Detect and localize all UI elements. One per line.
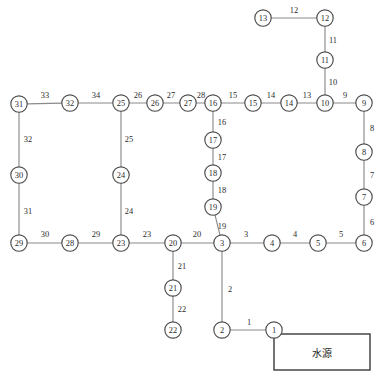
network-node: 6 (356, 235, 372, 251)
node-label: 12 (321, 14, 329, 23)
node-label: 14 (285, 99, 294, 108)
network-node: 27 (180, 95, 196, 111)
pipe-edge-label: 3 (244, 230, 248, 239)
pipe-edge-label: 23 (143, 230, 151, 239)
pipe-edge-label: 21 (178, 262, 186, 271)
network-node: 4 (264, 235, 280, 251)
network-node: 32 (62, 95, 78, 111)
pipe-edge-label: 18 (218, 186, 226, 195)
network-node: 18 (205, 165, 221, 181)
node-label: 28 (66, 239, 74, 248)
water-source-layer: 水源 (274, 334, 370, 370)
node-label: 30 (15, 171, 23, 180)
node-label: 31 (15, 100, 23, 109)
network-node: 23 (113, 235, 129, 251)
network-node: 29 (11, 235, 27, 251)
network-node: 17 (205, 132, 221, 148)
pipe-edge-label: 17 (218, 153, 226, 162)
node-label: 24 (117, 171, 126, 180)
node-label: 5 (316, 239, 320, 248)
edges-layer (19, 18, 364, 330)
pipe-edge-label: 1 (247, 318, 251, 327)
pipe-edge-label: 27 (167, 91, 175, 100)
node-label: 11 (321, 56, 329, 65)
pipe-edge-label: 2 (228, 285, 232, 294)
network-node: 16 (205, 95, 221, 111)
node-label: 20 (169, 239, 177, 248)
network-node: 21 (165, 280, 181, 296)
pipe-edge-label: 28 (197, 91, 205, 100)
network-node: 25 (113, 95, 129, 111)
pipe-edge-label: 13 (303, 91, 311, 100)
network-node: 15 (245, 95, 261, 111)
pipe-edge-label: 25 (125, 135, 133, 144)
node-label: 26 (151, 99, 159, 108)
node-label: 29 (15, 239, 23, 248)
network-node: 7 (356, 189, 372, 205)
water-source-label: 水源 (312, 347, 332, 359)
network-node: 1 (266, 322, 282, 338)
node-label: 9 (362, 99, 366, 108)
pipe-edge-label: 20 (193, 230, 201, 239)
network-node: 13 (255, 10, 271, 26)
network-node: 26 (147, 95, 163, 111)
pipe-network-diagram: 水源 1234567891011121314151617181920212223… (0, 0, 380, 377)
pipe-edge-label: 4 (293, 230, 298, 239)
network-node: 12 (317, 10, 333, 26)
network-node: 8 (356, 144, 372, 160)
node-label: 10 (321, 99, 329, 108)
pipe-edge-label: 14 (267, 91, 276, 100)
network-node: 3 (214, 235, 230, 251)
node-label: 6 (362, 239, 366, 248)
network-node: 22 (165, 322, 181, 338)
node-label: 13 (259, 14, 267, 23)
network-node: 10 (317, 95, 333, 111)
pipe-edge-label: 31 (24, 207, 32, 216)
pipe-edge-label: 34 (92, 91, 101, 100)
pipe-edge-label: 6 (370, 218, 374, 227)
node-label: 18 (209, 169, 217, 178)
pipe-edge-label: 12 (290, 6, 298, 15)
pipe-edge-label: 22 (178, 305, 186, 314)
network-node: 20 (165, 235, 181, 251)
network-node: 28 (62, 235, 78, 251)
network-node: 14 (281, 95, 297, 111)
node-label: 7 (362, 193, 366, 202)
node-label: 8 (362, 148, 366, 157)
network-node: 31 (11, 96, 27, 112)
node-label: 22 (169, 326, 177, 335)
pipe-edge-label: 11 (329, 36, 337, 45)
node-label: 21 (169, 284, 177, 293)
network-node: 9 (356, 95, 372, 111)
pipe-edge-label: 26 (134, 91, 142, 100)
node-label: 19 (209, 203, 217, 212)
node-label: 16 (209, 99, 217, 108)
network-node: 5 (310, 235, 326, 251)
pipe-edge-label: 29 (92, 230, 100, 239)
pipe-edge-label: 10 (329, 78, 337, 87)
node-label: 15 (249, 99, 257, 108)
network-node: 19 (205, 199, 221, 215)
node-label: 3 (220, 239, 224, 248)
node-label: 17 (209, 136, 217, 145)
network-svg: 水源 1234567891011121314151617181920212223… (0, 0, 380, 377)
network-node: 24 (113, 167, 129, 183)
pipe-edge-label: 33 (41, 91, 49, 100)
pipe-edge-label: 5 (339, 230, 343, 239)
pipe-edge-label: 32 (24, 135, 32, 144)
pipe-edge (27, 103, 62, 104)
pipe-edge-label: 30 (41, 230, 49, 239)
nodes-layer: 1234567891011121314151617181920212223242… (11, 10, 372, 338)
pipe-edge-label: 24 (125, 207, 134, 216)
network-node: 30 (11, 167, 27, 183)
pipe-edge-label: 15 (229, 91, 237, 100)
network-node: 2 (214, 322, 230, 338)
node-label: 32 (66, 99, 74, 108)
pipe-edge-label: 9 (343, 91, 347, 100)
node-label: 23 (117, 239, 125, 248)
node-label: 25 (117, 99, 125, 108)
node-label: 1 (272, 326, 276, 335)
network-node: 11 (317, 52, 333, 68)
pipe-edge-label: 16 (218, 118, 226, 127)
pipe-edge-label: 7 (370, 171, 374, 180)
